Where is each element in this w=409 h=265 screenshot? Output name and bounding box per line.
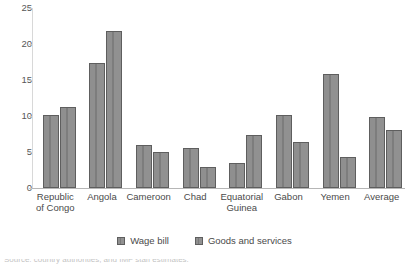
- bar: [43, 115, 59, 188]
- bar-group: [136, 8, 169, 188]
- x-axis-line: [32, 188, 405, 189]
- y-axis: 0510152025: [0, 0, 32, 196]
- figure-caption-text: Source: country authorities; and IMF sta…: [4, 259, 405, 264]
- bar: [369, 117, 385, 188]
- bar: [323, 74, 339, 188]
- legend-swatch-icon: [195, 237, 203, 245]
- bar: [106, 31, 122, 188]
- bar: [276, 115, 292, 188]
- y-axis-tick-label: 15: [4, 75, 32, 85]
- bar: [246, 135, 262, 188]
- legend-item[interactable]: Goods and services: [195, 236, 292, 246]
- bar: [340, 157, 356, 188]
- bar-group: [89, 8, 122, 188]
- legend-item[interactable]: Wage bill: [117, 236, 169, 246]
- chart-legend: Wage billGoods and services: [0, 236, 409, 246]
- legend-label: Wage bill: [130, 236, 169, 246]
- y-axis-tick-label: 25: [4, 3, 32, 13]
- x-axis-category-label: Average: [354, 191, 409, 202]
- bar: [89, 63, 105, 188]
- bar: [229, 163, 245, 188]
- bar-group: [276, 8, 309, 188]
- y-axis-tick-label: 10: [4, 111, 32, 121]
- bar-group: [369, 8, 402, 188]
- bar: [200, 167, 216, 188]
- bar-chart-figure: 0510152025 Republic of CongoAngolaCamero…: [0, 0, 409, 265]
- x-axis-labels: Republic of CongoAngolaCameroonChadEquat…: [32, 191, 405, 223]
- bar: [183, 148, 199, 188]
- bar: [386, 130, 402, 188]
- bar-group: [43, 8, 76, 188]
- bar: [136, 145, 152, 188]
- bar-group: [183, 8, 216, 188]
- bar-group: [323, 8, 356, 188]
- y-axis-tick-label: 5: [4, 147, 32, 157]
- figure-caption: Source: country authorities; and IMF sta…: [4, 259, 405, 265]
- bar: [60, 107, 76, 188]
- plot-area: [32, 8, 405, 188]
- bar: [153, 152, 169, 188]
- bar-group: [229, 8, 262, 188]
- bar: [293, 142, 309, 188]
- legend-swatch-icon: [117, 237, 125, 245]
- y-axis-tick-label: 20: [4, 39, 32, 49]
- legend-label: Goods and services: [208, 236, 292, 246]
